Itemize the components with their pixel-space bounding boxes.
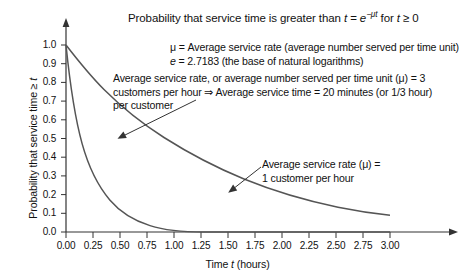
definition-e: e = 2.7183 (the base of natural logarith…: [170, 55, 459, 68]
x-axis-ticks: [66, 232, 390, 238]
callout-mu-1-line-1: Average service rate (μ) =: [262, 158, 380, 171]
exponential-service-time-chart: Probability that service time is greater…: [0, 0, 475, 280]
callout-mu-1-line-2: 1 customer per hour: [262, 172, 380, 185]
chart-title-part-3: ≥ 0: [400, 12, 419, 24]
y-axis-title: Probability that service time ≥ t: [27, 53, 40, 243]
y-axis-title-prefix: Probability that service time ≥: [27, 81, 39, 219]
x-axis-title: Time t (hours): [0, 258, 475, 271]
callout-mu-3-line-1: Average service rate, or average number …: [113, 72, 432, 85]
curve-mu-1: [66, 45, 390, 215]
callout-mu-3-line-2: customers per hour ⇒ Average service tim…: [113, 86, 432, 99]
y-axis-ticks: [61, 45, 66, 232]
x-axis-title-prefix: Time: [205, 258, 231, 270]
y-axis-title-var: t: [27, 78, 39, 81]
callout-mu-3: Average service rate, or average number …: [113, 72, 432, 113]
chart-title-part-2: for: [378, 12, 397, 24]
callout-mu-1: Average service rate (μ) = 1 customer pe…: [262, 158, 380, 185]
y-tick-label: 1.0: [30, 39, 56, 50]
definitions-annotation: μ = Average service rate (average number…: [170, 41, 459, 68]
callout-mu-3-line-3: per customer: [113, 99, 432, 112]
definition-e-text: = 2.7183 (the base of natural logarithms…: [176, 55, 364, 67]
chart-title: Probability that service time is greater…: [128, 12, 419, 26]
x-axis-title-suffix: (hours): [234, 258, 270, 270]
definition-mu: μ = Average service rate (average number…: [170, 41, 459, 54]
x-tick-label: 3.00: [373, 240, 407, 251]
chart-title-equals: =: [347, 12, 360, 24]
chart-title-part-1: Probability that service time is greater…: [128, 12, 344, 24]
chart-title-exponent: −μt: [366, 10, 377, 19]
leader-line-mu-1: [228, 167, 261, 193]
